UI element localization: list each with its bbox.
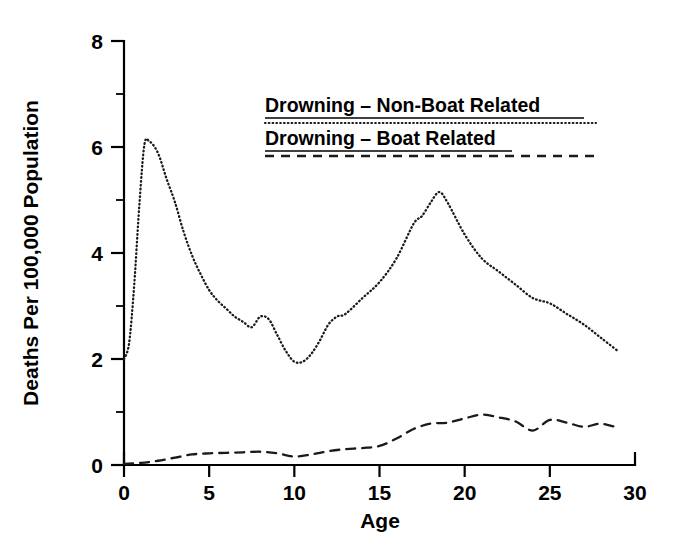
- y-tick-label: 4: [91, 242, 103, 265]
- legend: Drowning – Non-Boat Related Drowning – B…: [265, 94, 598, 156]
- y-tick-label: 0: [91, 454, 103, 477]
- x-tick-label: 15: [368, 481, 392, 504]
- y-axis-title: Deaths Per 100,000 Population: [19, 100, 42, 406]
- x-axis-tick-labels: 051015202530: [118, 481, 647, 504]
- legend-label-boat-related: Drowning – Boat Related: [265, 127, 496, 149]
- y-axis-tick-labels: 02468: [91, 30, 103, 477]
- x-tick-label: 10: [283, 481, 306, 504]
- legend-entry-boat-related: Drowning – Boat Related: [265, 127, 598, 156]
- series-line-boat-related: [124, 415, 618, 464]
- legend-entry-non-boat-related: Drowning – Non-Boat Related: [265, 94, 596, 123]
- x-tick-label: 20: [453, 481, 476, 504]
- x-tick-label: 25: [538, 481, 562, 504]
- chart-canvas: 02468 051015202530 Deaths Per 100,000 Po…: [0, 0, 673, 552]
- x-tick-label: 5: [203, 481, 215, 504]
- y-tick-label: 6: [91, 136, 103, 159]
- x-tick-label: 30: [623, 481, 646, 504]
- series-line-non-boat-related: [124, 139, 618, 363]
- y-tick-label: 2: [91, 348, 103, 371]
- chart-figure: 02468 051015202530 Deaths Per 100,000 Po…: [0, 0, 673, 552]
- y-axis-ticks: [111, 41, 124, 465]
- legend-label-non-boat-related: Drowning – Non-Boat Related: [265, 94, 540, 116]
- data-series-group: [124, 139, 618, 464]
- x-tick-label: 0: [118, 481, 130, 504]
- y-tick-label: 8: [91, 30, 103, 53]
- x-axis-title: Age: [360, 509, 400, 532]
